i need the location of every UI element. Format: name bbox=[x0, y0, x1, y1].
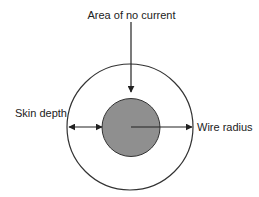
label-area-of-no-current: Area of no current bbox=[87, 9, 175, 21]
skin-effect-diagram: Area of no current Skin depth Wire radiu… bbox=[0, 0, 259, 197]
label-skin-depth: Skin depth bbox=[15, 107, 67, 119]
label-wire-radius: Wire radius bbox=[197, 121, 253, 133]
